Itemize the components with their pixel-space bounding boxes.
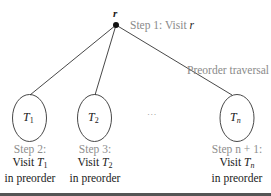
caption-t1-order: in preorder <box>0 172 65 185</box>
caption-t2-step: Step 3: <box>60 143 130 156</box>
bottom-rule <box>0 193 271 196</box>
step-1-var: r <box>189 19 193 31</box>
caption-tn-order: in preorder <box>202 172 271 185</box>
root-node <box>113 22 119 28</box>
edge-root-t2 <box>95 25 116 95</box>
caption-tn: Step n + 1: Visit Tn in preorder <box>202 143 271 185</box>
step-1-label: Step 1: Visit r <box>130 20 194 32</box>
ellipsis: · · · <box>147 110 156 119</box>
caption-t2-visit: Visit T2 <box>60 156 130 172</box>
subtree-t1-label: T1 <box>23 111 34 125</box>
subtree-tn-label: Tn <box>230 111 241 125</box>
edge-root-tn <box>116 25 232 95</box>
step-1-text: Step 1: Visit <box>130 19 189 31</box>
root-label: r <box>113 8 117 19</box>
caption-t1-visit: Visit T1 <box>0 156 65 172</box>
caption-t1: Step 2: Visit T1 in preorder <box>0 143 65 185</box>
caption-tn-step: Step n + 1: <box>202 143 271 156</box>
caption-t2: Step 3: Visit T2 in preorder <box>60 143 130 185</box>
caption-t1-step: Step 2: <box>0 143 65 156</box>
caption-tn-visit: Visit Tn <box>202 156 271 172</box>
edge-root-t1 <box>30 25 116 95</box>
subtree-t2-label: T2 <box>88 111 99 125</box>
traversal-label: Preorder traversal <box>187 65 269 77</box>
caption-t2-order: in preorder <box>60 172 130 185</box>
